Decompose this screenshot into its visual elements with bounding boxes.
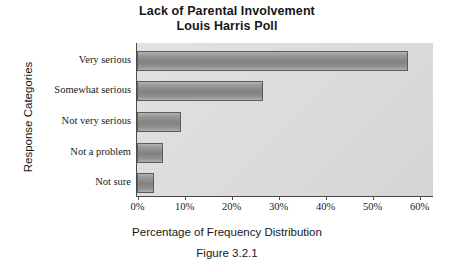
bar [137, 51, 409, 71]
x-axis-line [136, 196, 433, 197]
bar [137, 112, 181, 132]
chart-figure: Lack of Parental Involvement Louis Harri… [0, 0, 454, 272]
x-axis-tick-mark [138, 196, 139, 200]
x-axis-tick-label: 10% [165, 201, 205, 212]
x-axis-tick-mark [326, 196, 327, 200]
x-axis-tick-mark [420, 196, 421, 200]
bar [137, 143, 164, 163]
x-axis-title: Percentage of Frequency Distribution [0, 226, 454, 238]
bar [137, 173, 154, 193]
x-axis-tick-mark [279, 196, 280, 200]
y-axis-category-label: Not very serious [62, 115, 131, 126]
x-axis-tick-mark [232, 196, 233, 200]
x-axis-tick-mark [373, 196, 374, 200]
y-axis-category-label: Not sure [95, 176, 131, 187]
chart-title: Lack of Parental Involvement [0, 4, 454, 18]
x-axis-tick-label: 30% [259, 201, 299, 212]
y-axis-category-label: Very serious [79, 54, 131, 65]
x-axis-tick-label: 50% [353, 201, 393, 212]
figure-caption: Figure 3.2.1 [0, 247, 454, 259]
x-axis-tick-label: 60% [400, 201, 440, 212]
y-axis-title: Response Categories [22, 37, 34, 197]
x-axis-tick-mark [185, 196, 186, 200]
bar [137, 81, 263, 101]
x-axis-tick-label: 20% [212, 201, 252, 212]
x-axis-tick-label: 40% [306, 201, 346, 212]
x-axis-tick-label: 0% [118, 201, 158, 212]
y-axis-category-label: Somewhat serious [54, 84, 131, 95]
chart-subtitle: Louis Harris Poll [0, 19, 454, 33]
y-axis-category-label: Not a problem [70, 146, 131, 157]
